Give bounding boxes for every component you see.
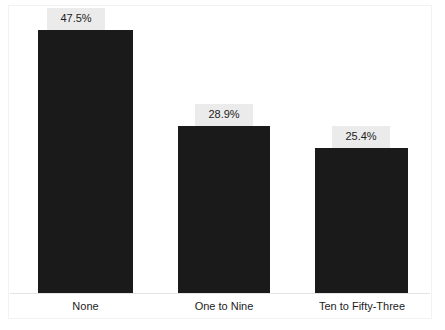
category-label-ten-to-fifty-three: Ten to Fifty-Three [301,300,423,313]
plot-area: 47.5% None 28.9% One to Nine 25.4% Ten t… [0,0,445,330]
bar-one-to-nine[interactable] [178,126,270,293]
category-label-one-to-nine: One to Nine [170,300,278,313]
value-label-one-to-nine: 28.9% [195,104,253,126]
value-label-ten-to-fifty-three: 25.4% [332,126,390,148]
category-axis-line [10,293,430,294]
bar-ten-to-fifty-three[interactable] [315,148,408,293]
bar-none[interactable] [38,30,133,293]
value-label-none: 47.5% [47,8,105,30]
bar-chart: 47.5% None 28.9% One to Nine 25.4% Ten t… [0,0,445,330]
category-label-none: None [38,300,133,313]
